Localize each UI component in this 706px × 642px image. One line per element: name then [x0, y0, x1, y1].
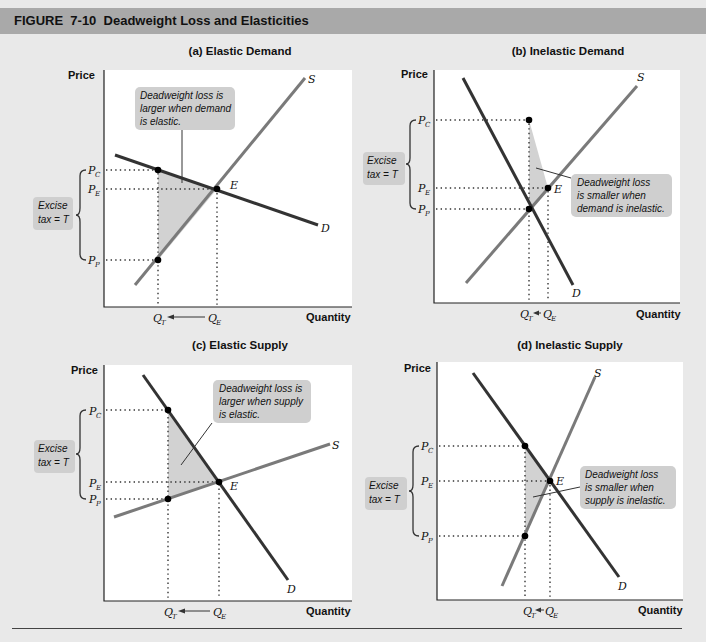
- svg-text:is smaller when: is smaller when: [585, 482, 654, 493]
- panel-b-inelastic-demand: Price Quantity S D E PC PE PP QT QE Exci…: [363, 68, 681, 323]
- svg-text:tax = T: tax = T: [367, 169, 399, 180]
- svg-text:S: S: [594, 367, 602, 380]
- equilibrium-point: [216, 479, 223, 486]
- svg-text:Deadweight loss: Deadweight loss: [577, 177, 650, 188]
- svg-text:T: T: [161, 319, 167, 327]
- svg-text:E: E: [215, 319, 221, 327]
- svg-text:is smaller when: is smaller when: [577, 190, 646, 201]
- figure-charts: .ax { stroke:#222; stroke-width:1.2; fil…: [0, 0, 706, 642]
- svg-text:Quantity: Quantity: [638, 604, 683, 616]
- svg-text:is elastic.: is elastic.: [140, 116, 181, 127]
- svg-text:C: C: [425, 121, 431, 129]
- svg-text:E: E: [555, 475, 564, 488]
- svg-text:P: P: [424, 210, 430, 218]
- svg-text:P: P: [95, 500, 101, 508]
- equilibrium-point: [214, 186, 221, 193]
- svg-text:larger when supply: larger when supply: [219, 396, 304, 407]
- panel-d-inelastic-supply: Price Quantity S D E PC PE PP QT QE Exci…: [365, 362, 683, 620]
- svg-text:Deadweight loss is: Deadweight loss is: [140, 90, 223, 101]
- svg-text:Quantity: Quantity: [306, 311, 351, 323]
- svg-text:Excise: Excise: [38, 443, 68, 454]
- svg-text:E: E: [94, 190, 100, 198]
- equilibrium-point: [545, 185, 552, 192]
- svg-text:E: E: [95, 484, 101, 492]
- svg-text:is elastic.: is elastic.: [219, 409, 260, 420]
- svg-text:Deadweight loss is: Deadweight loss is: [219, 383, 302, 394]
- svg-text:Excise: Excise: [369, 480, 399, 491]
- svg-text:P: P: [427, 537, 433, 545]
- svg-text:D: D: [320, 222, 330, 235]
- svg-text:D: D: [617, 580, 627, 593]
- svg-text:Price: Price: [68, 69, 95, 81]
- svg-text:Quantity: Quantity: [306, 605, 351, 617]
- svg-text:T: T: [172, 613, 178, 621]
- svg-text:P: P: [94, 261, 100, 269]
- svg-text:Deadweight loss: Deadweight loss: [585, 469, 658, 480]
- svg-text:Quantity: Quantity: [636, 308, 681, 320]
- svg-text:S: S: [637, 71, 645, 84]
- svg-text:demand is inelastic.: demand is inelastic.: [577, 203, 665, 214]
- svg-text:D: D: [571, 287, 581, 300]
- svg-text:E: E: [553, 183, 562, 196]
- svg-text:C: C: [95, 171, 101, 179]
- svg-text:E: E: [550, 315, 556, 323]
- equilibrium-point: [547, 478, 554, 485]
- svg-text:E: E: [552, 612, 558, 620]
- svg-text:E: E: [220, 613, 226, 621]
- svg-text:larger when demand: larger when demand: [140, 103, 232, 114]
- svg-text:Excise: Excise: [367, 155, 397, 166]
- svg-text:T: T: [528, 315, 534, 323]
- svg-text:D: D: [286, 583, 296, 596]
- panel-c-elastic-supply: Price Quantity S D E PC PE PP QT QE Exci…: [34, 364, 352, 621]
- svg-text:E: E: [229, 179, 238, 192]
- svg-text:C: C: [96, 412, 102, 420]
- svg-text:T: T: [531, 612, 537, 620]
- svg-text:tax = T: tax = T: [38, 214, 70, 225]
- svg-text:Price: Price: [401, 68, 428, 80]
- svg-text:C: C: [428, 447, 434, 455]
- svg-text:Excise: Excise: [38, 200, 68, 211]
- bottom-rule: [12, 628, 682, 629]
- panel-a-elastic-demand: Price Quantity S D E PC PE PP QT QE Exci…: [33, 69, 352, 327]
- svg-text:S: S: [308, 73, 316, 86]
- svg-text:E: E: [229, 480, 238, 493]
- svg-text:Price: Price: [404, 362, 431, 374]
- svg-text:Price: Price: [71, 364, 98, 376]
- svg-text:S: S: [332, 439, 340, 452]
- svg-text:E: E: [424, 189, 430, 197]
- svg-text:E: E: [427, 482, 433, 490]
- svg-text:supply is inelastic.: supply is inelastic.: [585, 495, 666, 506]
- svg-text:tax = T: tax = T: [38, 457, 70, 468]
- svg-text:tax = T: tax = T: [369, 494, 401, 505]
